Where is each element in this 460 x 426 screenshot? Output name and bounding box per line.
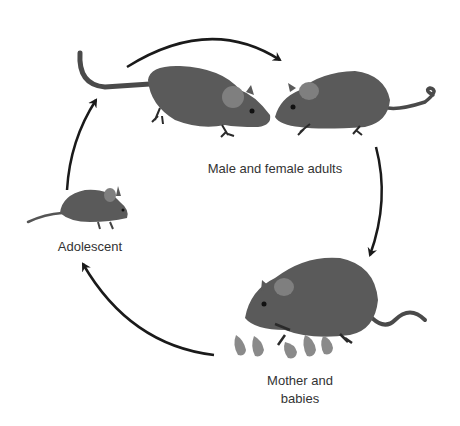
label-mother-line1: Mother and [250,372,350,389]
male-mouse-icon [80,53,270,137]
label-adults: Male and female adults [190,160,360,177]
label-adolescent: Adolescent [40,238,140,255]
arrow-right [370,147,382,255]
arrow-top [127,39,280,67]
mother-mouse-icon [245,258,425,345]
female-mouse-icon [275,71,434,135]
arrow-left [67,100,96,190]
label-mother-line2: babies [250,390,350,407]
life-cycle-diagram [0,0,460,426]
arrow-bottom [83,264,214,355]
adolescent-mouse-icon [28,186,128,229]
